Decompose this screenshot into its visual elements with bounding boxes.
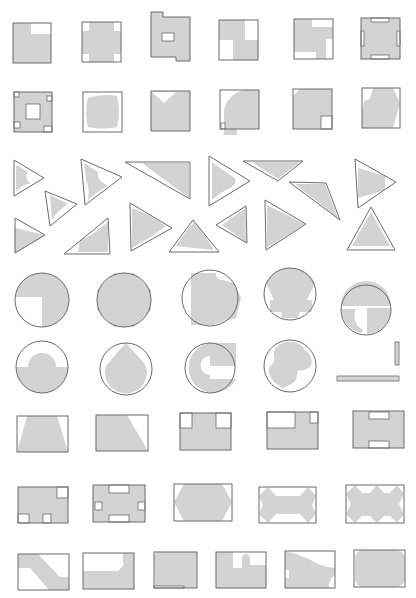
triangle-shapes-group (14, 156, 396, 254)
rectangle-r9 (259, 487, 316, 523)
triangle-fill (15, 228, 45, 253)
circle-fill (105, 343, 147, 393)
triangle-fill (358, 168, 385, 198)
shape-hole (109, 485, 129, 493)
shape-hole (369, 412, 389, 419)
rectangle-r4 (267, 412, 318, 449)
triangle-tri14 (265, 200, 306, 250)
square-sq3 (151, 12, 190, 61)
shape-fill (355, 550, 405, 587)
square-sq6 (361, 18, 400, 59)
square-sq4 (219, 20, 258, 60)
shape-fill (82, 22, 121, 62)
square-sq12 (362, 88, 400, 128)
circle-c9 (264, 340, 316, 392)
rectangle-r11 (18, 554, 69, 590)
circle-c3 (182, 270, 241, 326)
square-sq5 (294, 19, 333, 59)
shape-fill (154, 552, 197, 588)
triangle-tri3 (125, 162, 190, 199)
rectangle-r6 (18, 487, 68, 523)
shape-fill (17, 416, 68, 452)
triangle-fill (267, 205, 305, 248)
circle-shapes-group (15, 268, 391, 395)
triangle-tri12 (169, 220, 219, 252)
shape-hole (18, 514, 29, 523)
shape-fill (285, 551, 335, 588)
bar-shapes-group (337, 342, 399, 381)
circle-c5 (341, 281, 391, 335)
shape-fill (294, 19, 333, 59)
triangle-tri1 (14, 160, 44, 196)
shape-fill (83, 553, 134, 589)
shape-hole (26, 104, 40, 119)
triangle-tri5 (243, 161, 303, 181)
circle-c8 (185, 343, 236, 393)
circle-fill (16, 353, 68, 393)
circle-c7 (100, 343, 152, 395)
square-sq11 (293, 89, 332, 129)
triangle-tri15 (347, 207, 395, 250)
triangle-tri13 (216, 206, 247, 243)
bar-horizontal (337, 376, 399, 381)
shape-hole (57, 487, 68, 498)
triangle-tri9 (15, 218, 45, 253)
shape-hole (221, 123, 225, 129)
rectangle-r7 (93, 485, 145, 522)
shape-fill (216, 552, 266, 588)
square-shapes-group (13, 12, 400, 135)
rectangle-r2 (96, 415, 148, 451)
shape-hole (14, 122, 20, 128)
rectangle-r3 (180, 413, 231, 450)
shape-fill (224, 90, 259, 135)
shape-hole (267, 412, 295, 428)
shape-hole (162, 33, 174, 41)
rectangle-r12 (83, 553, 134, 589)
rectangle-r15 (285, 551, 335, 588)
triangle-tri6 (355, 159, 396, 208)
square-sq8 (83, 92, 122, 132)
shape-fill (259, 487, 316, 523)
shape-hole (43, 514, 51, 523)
shape-fill (361, 18, 400, 59)
triangle-fill (78, 222, 108, 252)
square-sq2 (82, 22, 121, 62)
shape-hole (44, 126, 52, 132)
rectangle-r16 (354, 550, 405, 587)
square-sq7 (14, 92, 52, 132)
triangle-tri7 (45, 191, 77, 226)
rectangle-r1 (17, 416, 68, 452)
shape-hole (95, 502, 102, 510)
shape-hole (321, 116, 332, 129)
triangle-fill (352, 212, 390, 246)
circle-c4 (264, 268, 316, 320)
triangle-tri4 (209, 156, 250, 206)
triangle-tri8 (289, 182, 340, 220)
square-sq9 (151, 91, 190, 131)
rectangle-r13 (154, 552, 197, 588)
shape-fill (18, 554, 69, 590)
shape-hole (47, 96, 52, 101)
triangle-tri10 (64, 218, 110, 254)
rectangle-r8 (174, 484, 232, 521)
triangle-tri2 (81, 159, 122, 205)
circle-c6 (16, 341, 68, 393)
circle-c2 (97, 273, 151, 327)
circle-fill (269, 342, 312, 388)
circle-fill (341, 281, 391, 334)
shape-catalog-figure (0, 0, 416, 598)
rectangle-r5 (353, 411, 404, 448)
rectangle-shapes-group (17, 411, 405, 590)
shape-hole (216, 413, 231, 428)
shape-fill (86, 95, 119, 129)
shape-hole (109, 515, 129, 522)
shape-hole (369, 441, 389, 448)
shape-hole (310, 412, 318, 423)
shape-hole (371, 18, 389, 22)
shape-fill (219, 20, 258, 60)
triangle-tri11 (130, 203, 172, 251)
rectangle-r10 (346, 485, 404, 523)
shape-hole (138, 502, 145, 510)
shape-hole (14, 92, 19, 97)
circle-c1 (15, 273, 69, 327)
